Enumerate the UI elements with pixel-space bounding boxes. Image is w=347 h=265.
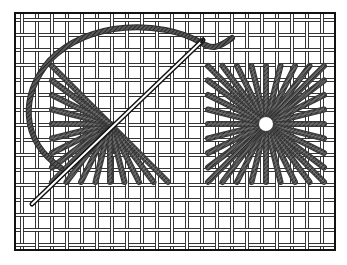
stitch-diagram	[0, 0, 347, 265]
needlework-illustration: Algerian eye stitch on needlepoint canva…	[0, 0, 347, 265]
center-hole	[259, 117, 273, 131]
completed-star-stitch	[208, 66, 324, 182]
